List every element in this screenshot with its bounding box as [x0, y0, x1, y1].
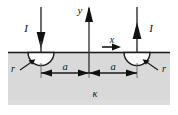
current-label-right: I [148, 22, 154, 34]
medium-bottom-shading [8, 100, 170, 105]
figure-container: I I y x r r a a κ [0, 0, 178, 115]
current-arrow-up-right [133, 22, 142, 39]
y-axis-arrowhead [85, 6, 93, 22]
dimension-label-left: a [62, 61, 67, 72]
radius-label-right: r [162, 63, 166, 74]
dimension-label-right: a [110, 61, 115, 72]
physics-diagram: I I y x r r a a κ [0, 0, 178, 115]
y-axis-label: y [77, 4, 83, 16]
radius-label-left: r [11, 63, 15, 74]
x-axis-label: x [109, 34, 115, 45]
current-label-left: I [23, 22, 29, 34]
